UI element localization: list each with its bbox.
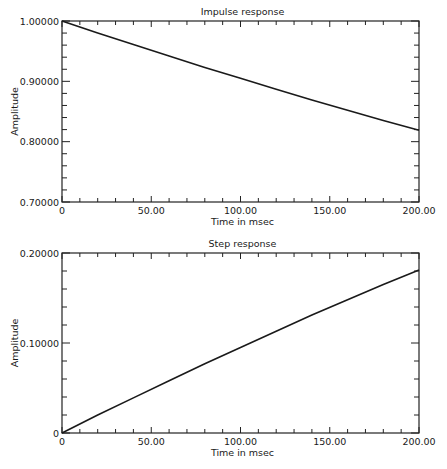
step-x-tick-label: 100.00	[224, 436, 257, 447]
chart-canvas: 050.00100.00150.00200.000.700000.800000.…	[0, 0, 447, 469]
impulse-x-tick-label: 50.00	[138, 205, 165, 216]
impulse-response-plot: 050.00100.00150.00200.000.700000.800000.…	[9, 6, 436, 227]
impulse-x-tick-label: 150.00	[313, 205, 346, 216]
impulse-x-tick-label: 0	[59, 205, 65, 216]
step-y-tick-label: 0	[53, 428, 59, 439]
step-x-tick-label: 0	[59, 436, 65, 447]
step-response-plot: 050.00100.00150.00200.0000.100000.20000S…	[9, 238, 436, 458]
impulse-y-tick-label: 0.90000	[20, 76, 59, 87]
step-chart-title: Step response	[209, 238, 277, 249]
step-x-tick-label: 200.00	[402, 436, 435, 447]
step-series-line	[62, 270, 419, 433]
impulse-x-tick-label: 200.00	[402, 205, 435, 216]
impulse-plot-frame	[62, 21, 419, 202]
step-y-tick-label: 0.20000	[20, 248, 59, 259]
impulse-x-axis-label: Time in msec	[210, 216, 274, 227]
step-y-axis-label: Amplitude	[9, 319, 20, 368]
step-x-tick-label: 150.00	[313, 436, 346, 447]
impulse-y-tick-label: 0.70000	[20, 197, 59, 208]
impulse-y-tick-label: 1.00000	[20, 16, 59, 27]
step-x-tick-label: 50.00	[138, 436, 165, 447]
impulse-series-line	[62, 21, 419, 130]
impulse-chart-title: Impulse response	[201, 6, 285, 17]
impulse-x-tick-label: 100.00	[224, 205, 257, 216]
step-x-axis-label: Time in msec	[210, 447, 274, 458]
impulse-y-tick-label: 0.80000	[20, 136, 59, 147]
impulse-y-axis-label: Amplitude	[9, 87, 20, 136]
step-y-tick-label: 0.10000	[20, 338, 59, 349]
